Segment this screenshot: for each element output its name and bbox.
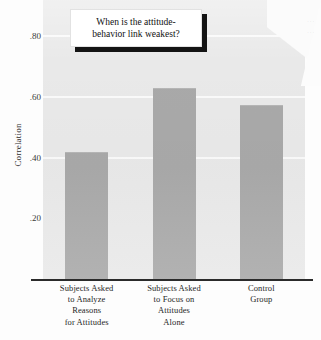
page-bleed-through-text: … … <box>245 14 315 36</box>
y-axis-tick-label: .20 <box>13 213 41 223</box>
x-axis-label-line: for Attitudes <box>43 317 130 328</box>
y-axis-title: Correlation <box>13 100 23 190</box>
bar <box>153 88 196 279</box>
x-axis-label-line: Group <box>218 294 305 305</box>
x-axis-category-label: Subjects Askedto AnalyzeReasonsfor Attit… <box>43 283 130 328</box>
chart-title-line-1: When is the attitude- <box>92 16 180 29</box>
x-axis-category-label: ControlGroup <box>218 283 305 305</box>
x-axis-label-line: Reasons <box>43 305 130 316</box>
chart-title-text: When is the attitude- behavior link weak… <box>87 16 185 41</box>
bar <box>240 105 283 279</box>
x-axis-label-line: Attitudes <box>130 305 217 316</box>
x-axis-label-line: Subjects Asked <box>43 283 130 294</box>
figure-screenshot: … … .80.60.40.20 Correlation Subjects As… <box>0 0 321 340</box>
x-axis-category-label: Subjects Askedto Focus onAttitudesAlone <box>130 283 217 328</box>
x-axis-label-line: to Analyze <box>43 294 130 305</box>
bar <box>65 152 108 279</box>
y-axis-tick-label: .80 <box>13 31 41 41</box>
chart-title-line-2: behavior link weakest? <box>92 28 180 41</box>
x-axis-label-line: to Focus on <box>130 294 217 305</box>
x-axis-line <box>31 279 313 281</box>
x-axis-category-labels: Subjects Askedto AnalyzeReasonsfor Attit… <box>43 283 305 338</box>
x-axis-label-line: Control <box>218 283 305 294</box>
chart-title-callout: When is the attitude- behavior link weak… <box>70 9 202 47</box>
x-axis-label-line: Alone <box>130 317 217 328</box>
x-axis-label-line: Subjects Asked <box>130 283 217 294</box>
